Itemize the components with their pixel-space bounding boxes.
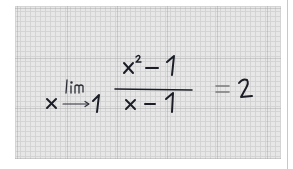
- numerator: [124, 56, 174, 76]
- handwritten-formula: [0, 0, 293, 169]
- lim-operator: [66, 80, 83, 93]
- approach-value-1: [93, 95, 99, 112]
- result-2: [239, 79, 252, 97]
- fraction-bar: [115, 89, 192, 90]
- denominator: [126, 93, 173, 112]
- approach-variable-x: [47, 99, 56, 108]
- equals-sign: [216, 86, 229, 92]
- arrow-icon: [63, 102, 89, 107]
